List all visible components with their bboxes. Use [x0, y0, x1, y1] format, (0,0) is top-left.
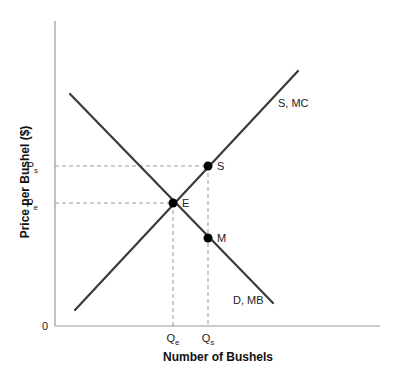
point-s: [204, 162, 213, 171]
origin-label: 0: [42, 320, 48, 332]
labels: S, MCD, MBESMPsPeQeQs: [26, 97, 308, 347]
point-m: [204, 234, 213, 243]
supply-curve: [75, 71, 298, 310]
points: [169, 162, 213, 243]
x-tick-qe: Qe: [166, 332, 180, 347]
y-axis-title: Price per Bushel ($): [18, 126, 32, 239]
point-label-s: S: [217, 160, 224, 172]
x-axis-title: Number of Bushels: [163, 350, 273, 364]
point-e: [169, 199, 178, 208]
x-tick-qs: Qs: [202, 332, 215, 347]
point-label-m: M: [217, 232, 226, 244]
supply-demand-chart: S, MCD, MBESMPsPeQeQs 0 Number of Bushel…: [0, 0, 401, 382]
curves: [70, 71, 298, 310]
point-label-e: E: [182, 197, 189, 209]
demand-curve: [70, 94, 273, 303]
demand-curve-label: D, MB: [233, 294, 264, 306]
guide-lines: [55, 166, 208, 326]
supply-curve-label: S, MC: [278, 97, 309, 109]
